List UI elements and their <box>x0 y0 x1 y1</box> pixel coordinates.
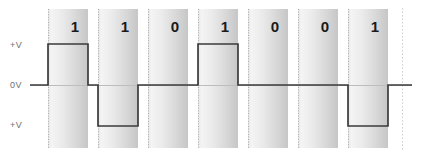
bit-value-label: 0 <box>305 18 345 35</box>
bit-value-label: 0 <box>155 18 195 35</box>
bit-value-label: 1 <box>205 18 245 35</box>
bit-value-label: 1 <box>55 18 95 35</box>
bit-value-label: 0 <box>255 18 295 35</box>
low-level-label: +V <box>10 120 22 130</box>
high-level-label: +V <box>10 40 22 50</box>
ami-waveform-diagram: +V 0V +V 1 1 0 1 0 0 1 <box>0 0 423 158</box>
bit-value-label: 1 <box>355 18 395 35</box>
bit-value-label: 1 <box>105 18 145 35</box>
zero-level-label: 0V <box>10 80 22 90</box>
